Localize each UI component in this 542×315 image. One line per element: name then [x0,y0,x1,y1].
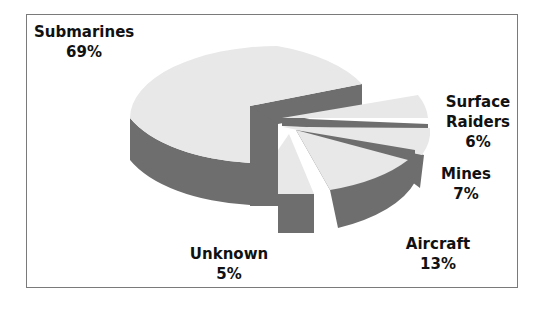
label-surface-raiders-name1: Surface [438,92,518,112]
label-surface-raiders: Surface Raiders 6% [438,92,518,152]
label-unknown-name: Unknown [184,244,274,264]
label-mines-name: Mines [434,164,498,184]
label-unknown-pct: 5% [184,264,274,284]
label-aircraft: Aircraft 13% [398,234,478,274]
label-aircraft-name: Aircraft [398,234,478,254]
label-mines-pct: 7% [434,184,498,204]
label-surface-raiders-pct: 6% [438,132,518,152]
label-aircraft-pct: 13% [398,254,478,274]
label-surface-raiders-name2: Raiders [438,112,518,132]
label-submarines-name: Submarines [34,22,134,42]
label-submarines-pct: 69% [34,42,134,62]
label-mines: Mines 7% [434,164,498,204]
label-submarines: Submarines 69% [34,22,134,62]
label-unknown: Unknown 5% [184,244,274,284]
